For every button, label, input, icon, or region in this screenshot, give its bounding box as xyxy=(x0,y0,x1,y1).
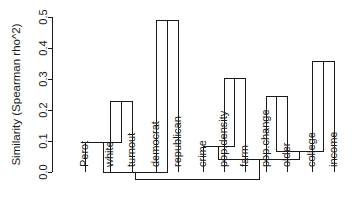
y-axis-tick-label: 0.5 xyxy=(37,9,49,24)
dendrogram-figure: 0.00.10.20.30.40.5 Perotwhiteturnoutdemo… xyxy=(0,0,356,217)
dendrogram-links xyxy=(85,20,334,179)
leaf-label-college: college xyxy=(305,132,317,167)
leaf-label-crime: crime xyxy=(196,140,208,167)
leaf-label-white: white xyxy=(103,141,115,168)
y-axis-tick-label: 0.2 xyxy=(37,102,49,117)
leaf-label-pop-change: pop.change xyxy=(259,110,271,168)
leaf-label-farm: farm xyxy=(238,145,250,167)
y-axis-tick-label: 0.3 xyxy=(37,71,49,86)
y-axis-title: Similarity (Spearman rho^2) xyxy=(10,23,22,165)
leaf-label-democrat: democrat xyxy=(149,121,161,167)
leaf-label-income: income xyxy=(327,132,339,167)
y-axis-title-text: Similarity (Spearman rho^2) xyxy=(10,23,22,165)
y-axis-tick-label: 0.4 xyxy=(37,40,49,55)
leaf-label-turnout: turnout xyxy=(125,133,137,167)
leaf-label-Perot: Perot xyxy=(78,141,90,167)
leaf-label-republican: republican xyxy=(171,116,183,167)
y-axis-tick-label: 0.0 xyxy=(37,164,49,179)
y-axis-tick-label: 0.1 xyxy=(37,133,49,148)
leaf-label-older: older xyxy=(280,142,292,167)
dendrogram-plot: 0.00.10.20.30.40.5 Perotwhiteturnoutdemo… xyxy=(0,0,356,217)
leaf-label-pop-density: pop.density xyxy=(217,110,229,167)
y-axis: 0.00.10.20.30.40.5 xyxy=(37,9,52,179)
